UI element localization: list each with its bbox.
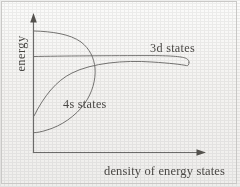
- up-arrow-icon: [30, 13, 37, 23]
- curve-3d-states-lower: [34, 61, 189, 116]
- y-axis-label: energy: [14, 24, 29, 84]
- curve-label-3d-states: 3d states: [150, 41, 195, 56]
- right-arrow-icon: [197, 149, 207, 156]
- curve-4s-states: [34, 31, 95, 133]
- curve-3d-states-upper: [34, 56, 189, 63]
- curve-label-4s-states: 4s states: [63, 97, 107, 112]
- x-axis-label: density of energy states: [104, 164, 225, 179]
- plot-canvas: [0, 0, 240, 187]
- figure-root: energy density of energy states 3d state…: [0, 0, 240, 187]
